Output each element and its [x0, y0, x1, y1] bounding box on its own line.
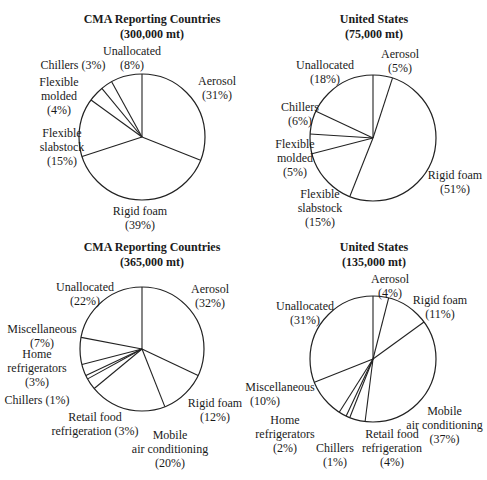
chart3-misc-pct: (7%)	[2, 336, 82, 350]
chart2-rigid-pct: (51%)	[420, 182, 487, 196]
chart2-title: United States	[314, 12, 434, 26]
chart3-rigid-pct: (12%)	[180, 410, 250, 424]
chart2-mold-pct: (5%)	[270, 165, 320, 179]
chart2-aerosol: Aerosol	[370, 47, 430, 61]
chart4-retail2: refrigeration	[357, 441, 427, 455]
chart4-home2: refrigerators	[250, 427, 320, 441]
chart4-retail: Retail food	[357, 427, 427, 441]
chart4-mac: Mobile	[402, 404, 487, 418]
chart3-retail: Retail food	[50, 410, 140, 424]
chart1-mold: Flexible	[34, 75, 84, 89]
chart1-rigid: Rigid foam	[105, 204, 175, 218]
chart2-slab: Flexible	[290, 187, 350, 201]
chart2-chillers: Chillers	[275, 100, 325, 114]
chart4-aerosol: Aerosol	[360, 272, 420, 286]
chart1-mold-pct: (4%)	[34, 103, 84, 117]
chart3-chillers: Chillers (1%)	[2, 393, 72, 407]
chart3-unal: Unallocated	[50, 280, 120, 294]
chart2-aerosol-pct: (5%)	[370, 61, 430, 75]
chart1-slab-pct: (15%)	[32, 154, 92, 168]
chart4-unal: Unallocated	[270, 299, 340, 313]
chart2-unal: Unallocated	[290, 58, 360, 72]
chart2-subtitle: (75,000 mt)	[314, 27, 434, 41]
chart1-slab: Flexible	[32, 126, 92, 140]
chart3-mac-pct: (20%)	[130, 456, 210, 470]
chart3-aerosol-pct: (32%)	[180, 296, 240, 310]
chart2-chillers-pct: (6%)	[275, 114, 325, 128]
chart3-title: CMA Reporting Countries	[82, 240, 222, 254]
chart4-misc: Miscellaneous	[240, 380, 320, 394]
chart2-rigid: Rigid foam	[420, 168, 487, 182]
chart3-home-pct: (3%)	[2, 375, 72, 389]
chart1-rigid-pct: (39%)	[105, 218, 175, 232]
chart2-slab-pct: (15%)	[290, 215, 350, 229]
chart1-mold2: molded	[34, 89, 84, 103]
chart3-home2: refrigerators	[2, 361, 72, 375]
chart3-retail2: refrigeration (3%)	[50, 424, 140, 438]
chart4-chillers-pct: (1%)	[310, 455, 360, 469]
chart1-slab2: slabstock	[32, 140, 92, 154]
chart2-mold: Flexible	[270, 137, 320, 151]
chart1-unal: Unallocated	[97, 44, 167, 58]
chart1-subtitle: (300,000 mt)	[82, 27, 222, 41]
chart3-misc: Miscellaneous	[2, 322, 82, 336]
chart4-subtitle: (135,000 mt)	[314, 255, 434, 269]
chart4-retail-pct: (4%)	[357, 455, 427, 469]
chart4-home-pct: (2%)	[250, 441, 320, 455]
chart3-mac: Mobile	[130, 428, 210, 442]
chart3-subtitle: (365,000 mt)	[82, 255, 222, 269]
chart2-slab2: slabstock	[290, 201, 350, 215]
chart4-unal-pct: (31%)	[270, 313, 340, 327]
chart4-rigid: Rigid foam	[405, 293, 475, 307]
chart2-unal-pct: (18%)	[290, 72, 360, 86]
chart1-title: CMA Reporting Countries	[82, 12, 222, 26]
chart3-unal-pct: (22%)	[50, 294, 120, 308]
chart4-title: United States	[314, 240, 434, 254]
chart4-misc-pct: (10%)	[240, 394, 290, 408]
chart3-mac2: air conditioning	[130, 442, 210, 456]
chart3-aerosol: Aerosol	[180, 282, 240, 296]
chart4-rigid-pct: (11%)	[405, 307, 475, 321]
chart4-home: Home	[250, 413, 320, 427]
chart1-aerosol: Aerosol	[187, 74, 247, 88]
chart2-mold2: molded	[270, 151, 320, 165]
chart1-aerosol-pct: (31%)	[187, 88, 247, 102]
chart1-unal-pct: (8%)	[97, 58, 167, 72]
